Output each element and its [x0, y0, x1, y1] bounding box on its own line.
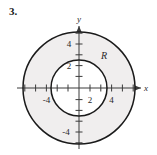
region-label-R: R — [100, 50, 107, 61]
x-tick-label-2: 2 — [88, 95, 93, 105]
y-tick-label-4: 4 — [67, 39, 72, 49]
x-axis-arrowhead — [135, 85, 141, 90]
y-tick-label-neg4: -4 — [62, 127, 70, 137]
y-axis-label: y — [76, 14, 81, 24]
y-tick-label-2: 2 — [67, 61, 72, 71]
x-tick-label-neg4: -4 — [43, 95, 51, 105]
figure-page: 3. — [0, 0, 157, 155]
annulus-region-figure: x y -4 2 4 4 2 -4 R — [0, 0, 157, 155]
y-axis-arrowhead — [76, 26, 81, 32]
x-axis-label: x — [143, 83, 148, 93]
x-tick-label-4: 4 — [109, 95, 114, 105]
